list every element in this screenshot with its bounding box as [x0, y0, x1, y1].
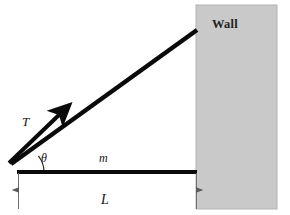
tension-label: T — [22, 115, 29, 128]
length-label-L: L — [101, 193, 109, 207]
angle-label-theta: θ — [41, 152, 47, 164]
wall-label: Wall — [212, 18, 238, 31]
diagram-canvas — [0, 0, 290, 215]
cable-line — [11, 30, 197, 164]
physics-diagram-figure: Wall T θ m L — [0, 0, 290, 215]
wall-block — [196, 5, 277, 209]
tension-arrow — [9, 113, 61, 163]
beam-mass-label: m — [99, 152, 108, 164]
